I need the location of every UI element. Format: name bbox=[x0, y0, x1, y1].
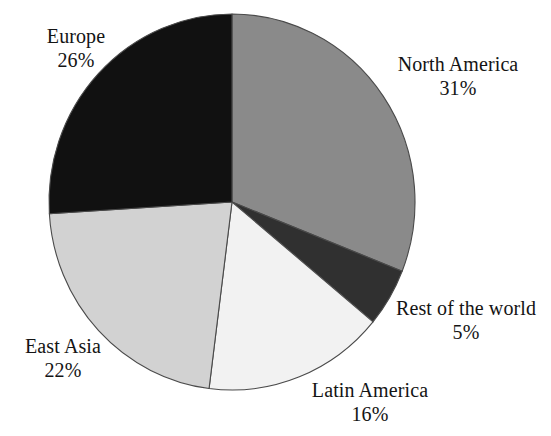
slice-label-east-asia: East Asia 22% bbox=[4, 334, 122, 383]
slice-label-east-asia-value: 22% bbox=[4, 358, 122, 382]
slice-label-rest-of-the-world-value: 5% bbox=[382, 320, 550, 344]
pie-chart: Europe 26% North America 31% Rest of the… bbox=[0, 0, 551, 436]
slice-label-north-america-name: North America bbox=[374, 52, 542, 76]
slice-label-europe: Europe 26% bbox=[14, 24, 138, 73]
slice-label-north-america-value: 31% bbox=[374, 76, 542, 100]
slice-label-latin-america: Latin America 16% bbox=[292, 378, 448, 427]
slice-label-east-asia-name: East Asia bbox=[4, 334, 122, 358]
slice-label-latin-america-name: Latin America bbox=[292, 378, 448, 402]
slice-label-rest-of-the-world: Rest of the world 5% bbox=[382, 296, 550, 345]
slice-label-europe-name: Europe bbox=[14, 24, 138, 48]
slice-label-north-america: North America 31% bbox=[374, 52, 542, 101]
slice-label-rest-of-the-world-name: Rest of the world bbox=[382, 296, 550, 320]
slice-label-latin-america-value: 16% bbox=[292, 402, 448, 426]
slice-label-europe-value: 26% bbox=[14, 48, 138, 72]
